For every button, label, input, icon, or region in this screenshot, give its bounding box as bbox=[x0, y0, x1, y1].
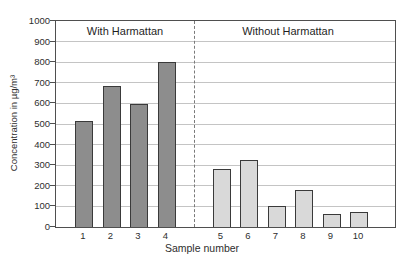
y-tick-mark bbox=[50, 205, 55, 206]
bar-sample-10 bbox=[350, 212, 368, 227]
x-tick-label: 10 bbox=[353, 230, 364, 241]
gridline-900 bbox=[56, 41, 395, 42]
y-tick-mark bbox=[50, 82, 55, 83]
group-label-with-harmattan: With Harmattan bbox=[87, 25, 163, 37]
y-tick-mark bbox=[50, 185, 55, 186]
x-tick-label: 2 bbox=[108, 230, 113, 241]
y-tick-label: 300 bbox=[18, 159, 50, 170]
plot-area: With Harmattan Without Harmattan bbox=[55, 20, 396, 228]
y-tick-label: 0 bbox=[18, 221, 50, 232]
x-tick-label: 5 bbox=[218, 230, 223, 241]
y-tick-mark bbox=[50, 123, 55, 124]
y-tick-label: 700 bbox=[18, 77, 50, 88]
bar-sample-9 bbox=[323, 214, 341, 227]
group-separator-dashed-line bbox=[194, 21, 195, 227]
y-tick-label: 400 bbox=[18, 139, 50, 150]
y-tick-mark bbox=[50, 164, 55, 165]
x-tick-label: 4 bbox=[163, 230, 168, 241]
bar-sample-1 bbox=[75, 121, 93, 227]
y-tick-label: 600 bbox=[18, 97, 50, 108]
x-tick-label: 1 bbox=[80, 230, 85, 241]
x-tick-label: 7 bbox=[273, 230, 278, 241]
y-tick-label: 900 bbox=[18, 36, 50, 47]
y-tick-label: 500 bbox=[18, 118, 50, 129]
y-tick-mark bbox=[50, 20, 55, 21]
y-tick-label: 100 bbox=[18, 200, 50, 211]
y-tick-mark bbox=[50, 144, 55, 145]
x-tick-label: 8 bbox=[300, 230, 305, 241]
bar-sample-5 bbox=[213, 169, 231, 227]
y-tick-mark bbox=[50, 41, 55, 42]
bar-sample-6 bbox=[240, 160, 258, 227]
bar-sample-7 bbox=[268, 206, 286, 227]
y-tick-label: 200 bbox=[18, 180, 50, 191]
y-tick-mark bbox=[50, 102, 55, 103]
bar-sample-3 bbox=[130, 104, 148, 227]
y-tick-label: 1000 bbox=[18, 15, 50, 26]
bar-sample-4 bbox=[158, 62, 176, 227]
bar-chart-figure: Concentration in µg/m³ With Harmattan Wi… bbox=[0, 0, 406, 264]
gridline-700 bbox=[56, 82, 395, 83]
y-axis-title: Concentration in µg/m³ bbox=[8, 75, 19, 171]
x-tick-label: 9 bbox=[328, 230, 333, 241]
x-tick-label: 6 bbox=[245, 230, 250, 241]
group-label-without-harmattan: Without Harmattan bbox=[242, 25, 334, 37]
gridline-800 bbox=[56, 62, 395, 63]
y-tick-label: 800 bbox=[18, 56, 50, 67]
bar-sample-8 bbox=[295, 190, 313, 227]
x-tick-label: 3 bbox=[135, 230, 140, 241]
bar-sample-2 bbox=[103, 86, 121, 227]
y-tick-mark bbox=[50, 61, 55, 62]
x-axis-title: Sample number bbox=[165, 242, 239, 254]
y-tick-mark bbox=[50, 226, 55, 227]
